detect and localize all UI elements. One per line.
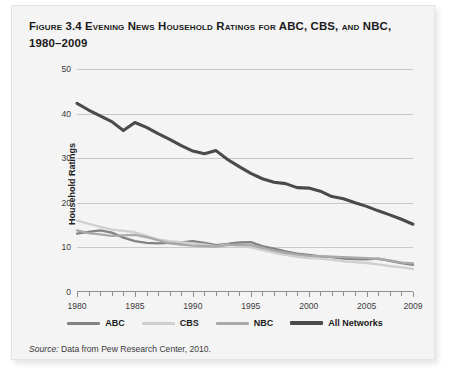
x-axis-tick <box>309 292 310 297</box>
x-axis-tick <box>367 292 368 297</box>
legend-item-nbc: NBC <box>216 318 274 328</box>
y-axis-tick-label: 10 <box>61 242 71 252</box>
source-note: Source: Data from Pew Research Center, 2… <box>29 344 211 354</box>
figure-title: Figure 3.4 Evening News Household Rating… <box>29 18 421 51</box>
figure-card: Figure 3.4 Evening News Household Rating… <box>11 5 435 360</box>
y-axis-tick-label: 50 <box>61 64 71 74</box>
x-axis-tick-label: 1995 <box>241 301 260 311</box>
chart-legend: ABCCBSNBCAll Networks <box>29 318 421 328</box>
x-axis-tick <box>262 292 263 296</box>
x-axis-tick <box>413 292 414 297</box>
x-axis-tick <box>286 292 287 296</box>
x-axis-tick <box>77 292 78 297</box>
x-axis-tick <box>320 292 321 296</box>
x-axis-tick-label: 1990 <box>183 301 202 311</box>
x-axis-tick <box>239 292 240 296</box>
x-axis-tick <box>123 292 124 296</box>
x-axis-tick <box>228 292 229 296</box>
legend-swatch <box>67 322 100 325</box>
x-axis-tick <box>158 292 159 296</box>
legend-swatch <box>290 321 323 325</box>
x-axis-tick-label: 1985 <box>125 301 144 311</box>
legend-swatch <box>142 322 175 325</box>
x-axis-tick <box>216 292 217 296</box>
legend-swatch <box>216 322 249 325</box>
plot-area: 01020304050 1980198519901995200020052009 <box>77 69 413 292</box>
legend-item-all-networks: All Networks <box>290 318 383 328</box>
x-axis-tick <box>355 292 356 296</box>
legend-label: CBS <box>180 318 199 328</box>
series-lines <box>77 69 413 292</box>
x-axis-tick <box>390 292 391 296</box>
source-text: Data from Pew Research Center, 2010. <box>59 344 211 354</box>
x-axis-tick <box>112 292 113 296</box>
y-axis-tick-label: 40 <box>61 109 71 119</box>
legend-label: All Networks <box>328 318 383 328</box>
x-axis-tick <box>378 292 379 296</box>
x-axis-tick <box>332 292 333 296</box>
x-axis-tick <box>193 292 194 297</box>
x-axis-tick <box>274 292 275 296</box>
x-axis-tick <box>204 292 205 296</box>
legend-item-cbs: CBS <box>142 318 199 328</box>
x-axis-tick <box>401 292 402 296</box>
x-axis-tick <box>147 292 148 296</box>
y-axis-tick-label: 0 <box>66 287 71 297</box>
series-line-all-networks <box>77 103 413 224</box>
x-axis-tick <box>297 292 298 296</box>
x-axis-tick <box>100 292 101 296</box>
x-axis-tick-label: 2005 <box>357 301 376 311</box>
x-axis-tick <box>135 292 136 297</box>
x-axis-tick <box>181 292 182 296</box>
legend-item-abc: ABC <box>67 318 125 328</box>
y-axis-tick-label: 20 <box>61 198 71 208</box>
x-axis-tick-label: 2000 <box>299 301 318 311</box>
source-label: Source: <box>29 344 59 354</box>
legend-label: NBC <box>254 318 274 328</box>
x-axis-tick <box>170 292 171 296</box>
x-axis-tick <box>343 292 344 296</box>
x-axis-tick <box>251 292 252 297</box>
x-axis-tick-label: 1980 <box>67 301 86 311</box>
chart-plot-panel: Household Ratings 01020304050 1980198519… <box>29 56 421 312</box>
y-axis-tick-label: 30 <box>61 153 71 163</box>
x-axis-tick <box>89 292 90 296</box>
x-axis-tick-label: 2009 <box>403 301 422 311</box>
legend-label: ABC <box>105 318 125 328</box>
